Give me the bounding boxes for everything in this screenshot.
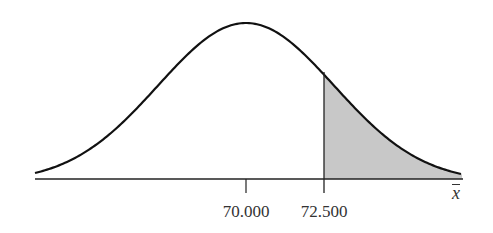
x-bar-axis-label: x <box>452 183 460 204</box>
mean-tick-label: 70.000 <box>223 202 270 222</box>
cutoff-tick-label: 72.500 <box>301 202 348 222</box>
normal-curve-plot <box>0 0 493 233</box>
shaded-tail-area <box>324 75 462 179</box>
